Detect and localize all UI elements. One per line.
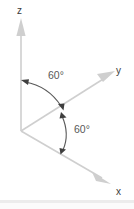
z-axis-label: z — [17, 6, 22, 16]
axes-diagram-svg — [0, 0, 134, 209]
arrow-downright-icon — [92, 172, 111, 184]
arrow-up-icon — [16, 18, 25, 36]
lower-angle-label: 60° — [74, 124, 90, 135]
upper-angle-label: 60° — [48, 70, 64, 81]
coordinate-axes-figure: z y x 60° 60° — [0, 0, 134, 209]
upper-angle-arc-group — [21, 79, 65, 110]
x-axis-line — [21, 131, 102, 178]
upper-arc-start-arrowhead — [21, 79, 29, 85]
lower-angle-arc — [62, 116, 66, 150]
upper-angle-arc — [25, 82, 61, 106]
axis-lines-group — [21, 30, 108, 178]
axis-arrowheads-group — [16, 18, 115, 184]
lower-arc-end-arrowhead — [60, 148, 67, 155]
lower-arc-start-arrowhead — [60, 112, 67, 119]
lower-angle-arc-group — [60, 112, 67, 155]
bottom-strip — [0, 203, 134, 209]
x-axis-label: x — [116, 187, 121, 197]
y-axis-label: y — [116, 66, 121, 76]
